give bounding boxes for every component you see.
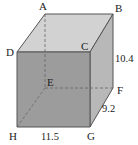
vertex-label-c: C [81, 40, 88, 52]
rectangular-prism-diagram: A B C D E F G H 10.4 9.2 11.5 [0, 0, 138, 145]
vertex-label-f: F [117, 84, 123, 96]
vertex-label-b: B [115, 2, 122, 14]
measurement-height: 10.4 [115, 53, 134, 64]
measurement-depth: 9.2 [102, 103, 115, 114]
measurement-width: 11.5 [41, 131, 59, 142]
vertex-label-h: H [9, 130, 17, 142]
front-face [17, 52, 90, 127]
vertex-label-d: D [6, 46, 14, 58]
vertex-label-a: A [39, 0, 47, 12]
vertex-label-e: E [47, 76, 54, 88]
vertex-label-g: G [87, 130, 95, 142]
